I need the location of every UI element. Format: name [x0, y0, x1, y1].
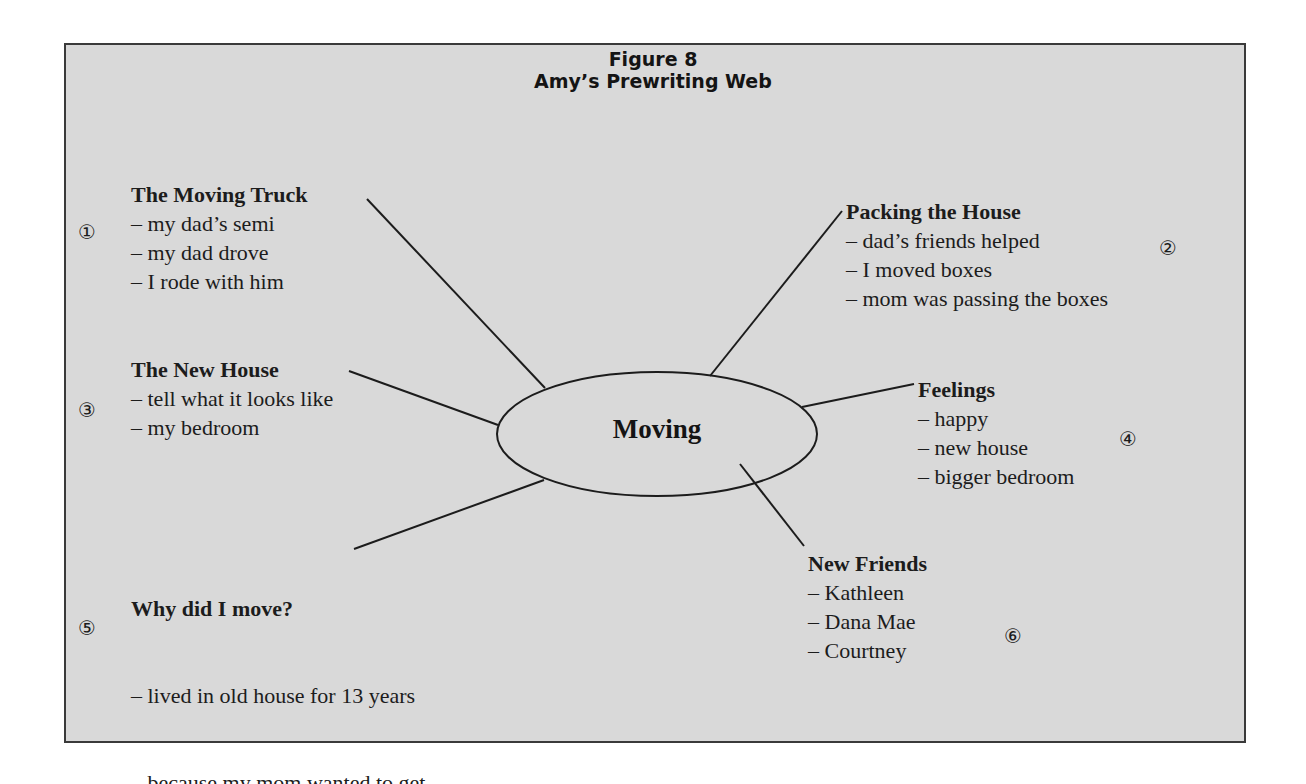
branch-item: – Dana Mae — [808, 607, 927, 636]
branch-item: – new house — [918, 433, 1074, 462]
branch-item: – Courtney — [808, 636, 927, 665]
branch-packing-house: Packing the House – dad’s friends helped… — [846, 197, 1108, 313]
branch-item: – bigger bedroom — [918, 462, 1074, 491]
branch-heading: Packing the House — [846, 197, 1108, 226]
branch-item: – I moved boxes — [846, 255, 1108, 284]
branch-number-3: ③ — [78, 399, 96, 421]
center-topic: Moving — [497, 414, 817, 445]
branch-heading: New Friends — [808, 549, 927, 578]
branch-number-5: ⑤ — [78, 617, 96, 639]
branch-number-6: ⑥ — [1004, 625, 1022, 647]
branch-heading: Feelings — [918, 375, 1074, 404]
branch-item: – Kathleen — [808, 578, 927, 607]
branch-item: – happy — [918, 404, 1074, 433]
branch-item: – tell what it looks like — [131, 384, 333, 413]
branch-item: – mom was passing the boxes — [846, 284, 1108, 313]
branch-heading: The Moving Truck — [131, 180, 307, 209]
connector-feelings — [802, 384, 914, 407]
connector-packing — [710, 211, 842, 376]
branch-feelings: Feelings – happy – new house – bigger be… — [918, 375, 1074, 491]
branch-why-move: Why did I move? – lived in old house for… — [131, 536, 425, 784]
branch-heading: The New House — [131, 355, 333, 384]
branch-item: – I rode with him — [131, 267, 307, 296]
branch-moving-truck: The Moving Truck – my dad’s semi – my da… — [131, 180, 307, 296]
branch-item: – because my mom wanted to get — [131, 768, 425, 784]
branch-item: – my bedroom — [131, 413, 333, 442]
branch-item: – lived in old house for 13 years — [131, 681, 425, 710]
branch-item: – my dad drove — [131, 238, 307, 267]
branch-heading: Why did I move? — [131, 594, 425, 623]
branch-item: – my dad’s semi — [131, 209, 307, 238]
branch-number-4: ④ — [1119, 428, 1137, 450]
branch-number-1: ① — [78, 221, 96, 243]
branch-item: – dad’s friends helped — [846, 226, 1108, 255]
branch-new-house: The New House – tell what it looks like … — [131, 355, 333, 442]
branch-new-friends: New Friends – Kathleen – Dana Mae – Cour… — [808, 549, 927, 665]
branch-number-2: ② — [1159, 237, 1177, 259]
connector-moving-truck — [367, 199, 545, 388]
connector-new-house — [349, 371, 498, 425]
